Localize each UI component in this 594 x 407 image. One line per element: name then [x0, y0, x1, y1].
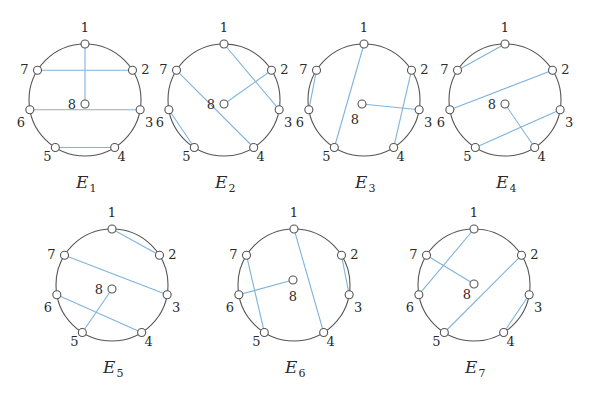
edge-1-4	[294, 229, 324, 332]
diagram-caption: E4	[495, 172, 516, 195]
edge-6-4	[57, 295, 142, 333]
node-label-3: 3	[565, 115, 573, 130]
node-7	[423, 251, 431, 259]
node-2	[548, 66, 556, 74]
node-label-6: 6	[226, 300, 234, 315]
node-6	[446, 106, 454, 114]
node-7	[313, 66, 321, 74]
node-6	[53, 291, 61, 299]
edge-3-4	[504, 295, 529, 333]
node-2	[517, 251, 525, 259]
node-label-7: 7	[299, 62, 307, 77]
diagram-caption: E2	[214, 172, 235, 195]
edge-8-4	[505, 104, 535, 147]
edge-7-5	[247, 255, 265, 332]
node-1	[290, 225, 298, 233]
node-label-4: 4	[538, 149, 546, 164]
node-label-6: 6	[44, 300, 52, 315]
node-label-7: 7	[20, 62, 28, 77]
node-label-1: 1	[470, 205, 478, 220]
node-label-5: 5	[463, 149, 471, 164]
outer-circle	[238, 229, 350, 341]
node-label-1: 1	[220, 20, 228, 35]
edge-1-7	[458, 44, 505, 70]
node-label-6: 6	[406, 300, 414, 315]
node-label-8: 8	[351, 112, 359, 127]
node-3	[275, 106, 283, 114]
diagram-e5: 12345678E5	[44, 205, 181, 380]
node-label-4: 4	[145, 334, 153, 349]
node-label-2: 2	[420, 62, 428, 77]
node-3	[345, 291, 353, 299]
node-label-4: 4	[327, 334, 335, 349]
node-label-4: 4	[397, 149, 405, 164]
node-label-5: 5	[182, 149, 190, 164]
node-7	[34, 66, 42, 74]
node-1	[108, 225, 116, 233]
node-8	[501, 100, 509, 108]
node-label-5: 5	[322, 149, 330, 164]
node-label-6: 6	[17, 115, 25, 130]
edge-7-8	[427, 255, 474, 284]
node-label-8: 8	[95, 282, 103, 297]
node-label-2: 2	[530, 247, 538, 262]
node-1	[81, 40, 89, 48]
edge-1-6	[419, 229, 474, 295]
node-6	[305, 106, 313, 114]
node-label-3: 3	[284, 115, 292, 130]
node-8	[108, 285, 116, 293]
node-label-7: 7	[47, 247, 55, 262]
node-5	[260, 328, 268, 336]
diagram-caption: E5	[102, 357, 123, 380]
node-5	[51, 143, 59, 151]
node-label-3: 3	[172, 300, 180, 315]
node-label-3: 3	[534, 300, 542, 315]
node-1	[501, 40, 509, 48]
node-label-1: 1	[81, 20, 89, 35]
node-label-3: 3	[145, 115, 153, 130]
node-label-5: 5	[70, 334, 78, 349]
node-8	[220, 100, 228, 108]
diagram-e1: 12345678E1	[17, 20, 154, 195]
node-label-1: 1	[290, 205, 298, 220]
node-5	[330, 143, 338, 151]
node-label-8: 8	[289, 289, 297, 304]
node-2	[128, 66, 136, 74]
node-label-1: 1	[501, 20, 509, 35]
edge-2-5	[444, 255, 521, 332]
node-label-1: 1	[108, 205, 116, 220]
node-8	[81, 100, 89, 108]
node-2	[407, 66, 415, 74]
node-6	[165, 106, 173, 114]
node-8	[289, 276, 297, 284]
node-7	[243, 251, 251, 259]
node-3	[415, 106, 423, 114]
edge-8-3	[362, 104, 419, 110]
node-5	[190, 143, 198, 151]
edge-6-8	[239, 280, 293, 295]
edge-1-3	[224, 44, 279, 110]
diagram-caption: E7	[464, 357, 485, 380]
node-label-7: 7	[159, 62, 167, 77]
node-6	[235, 291, 243, 299]
diagram-caption: E6	[284, 357, 305, 380]
diagram-e6: 12345678E6	[226, 205, 363, 380]
node-2	[155, 251, 163, 259]
node-label-8: 8	[488, 97, 496, 112]
node-label-5: 5	[432, 334, 440, 349]
node-label-5: 5	[43, 149, 51, 164]
node-label-4: 4	[507, 334, 515, 349]
edge-2-3	[341, 255, 349, 294]
edge-3-5	[475, 110, 560, 148]
diagram-caption: E1	[75, 172, 96, 195]
node-3	[556, 106, 564, 114]
node-6	[415, 291, 423, 299]
edge-2-8	[224, 70, 271, 104]
node-label-8: 8	[463, 287, 471, 302]
node-label-6: 6	[156, 115, 164, 130]
node-7	[454, 66, 462, 74]
node-label-1: 1	[360, 20, 368, 35]
node-5	[78, 328, 86, 336]
node-2	[267, 66, 275, 74]
node-3	[136, 106, 144, 114]
